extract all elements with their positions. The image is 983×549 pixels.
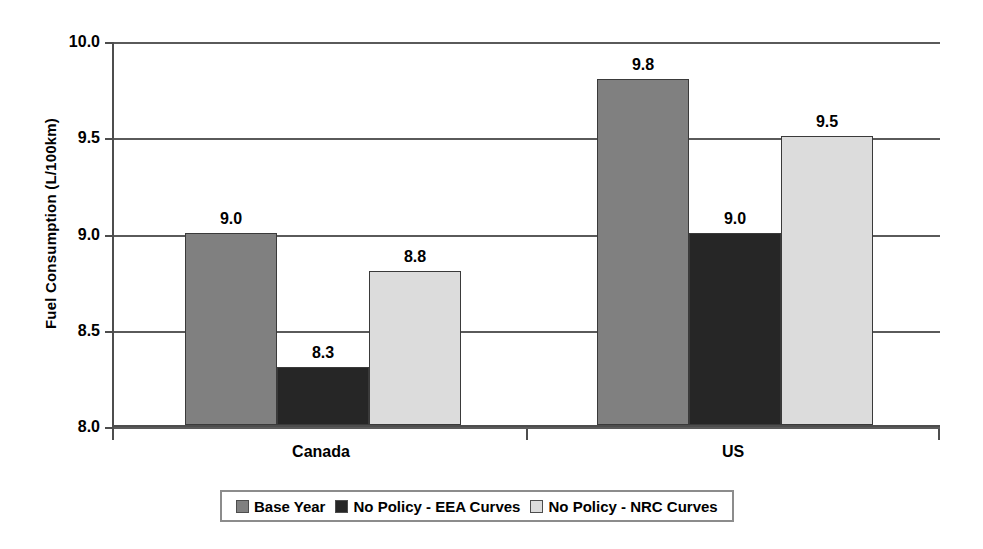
y-tick-label: 8.0 xyxy=(78,418,100,436)
y-tick-mark xyxy=(105,42,114,44)
legend-item: No Policy - NRC Curves xyxy=(530,498,717,515)
legend-item: No Policy - EEA Curves xyxy=(335,498,520,515)
legend: Base YearNo Policy - EEA CurvesNo Policy… xyxy=(220,490,734,522)
legend-label: No Policy - NRC Curves xyxy=(548,498,717,515)
bar-chart: Fuel Consumption (L/100km) 10.09.59.08.5… xyxy=(0,0,983,549)
x-axis-tick xyxy=(526,429,528,440)
bar: 8.8 xyxy=(369,271,461,425)
y-tick-mark xyxy=(105,235,114,237)
y-axis-title: Fuel Consumption (L/100km) xyxy=(42,44,59,404)
bar-value-label: 9.0 xyxy=(724,210,746,228)
legend-swatch-icon xyxy=(335,500,348,513)
y-tick-label: 10.0 xyxy=(69,33,100,51)
y-tick-label: 9.0 xyxy=(78,226,100,244)
legend-label: No Policy - EEA Curves xyxy=(353,498,520,515)
legend-item: Base Year xyxy=(236,498,325,515)
gridline xyxy=(114,42,940,44)
bar: 9.0 xyxy=(689,233,781,426)
bar-value-label: 9.0 xyxy=(220,210,242,228)
plot-area: 10.09.59.08.58.0 9.08.38.89.89.09.5 xyxy=(112,42,940,427)
x-category-label: US xyxy=(722,443,744,461)
category-axis: CanadaUS xyxy=(112,429,940,469)
legend-swatch-icon xyxy=(236,500,249,513)
legend-swatch-icon xyxy=(530,500,543,513)
bar-value-label: 9.8 xyxy=(632,56,654,74)
y-tick-label: 9.5 xyxy=(78,129,100,147)
y-tick-mark xyxy=(105,138,114,140)
bar: 9.8 xyxy=(597,79,689,426)
y-tick-mark xyxy=(105,331,114,333)
bar-value-label: 8.3 xyxy=(312,344,334,362)
y-tick-label: 8.5 xyxy=(78,322,100,340)
bar-value-label: 9.5 xyxy=(816,113,838,131)
x-category-label: Canada xyxy=(292,443,350,461)
bar: 8.3 xyxy=(277,367,369,425)
x-axis-tick xyxy=(938,429,940,440)
x-axis-tick xyxy=(112,429,114,440)
bar: 9.5 xyxy=(781,136,873,425)
bar-value-label: 8.8 xyxy=(404,248,426,266)
bar: 9.0 xyxy=(185,233,277,426)
legend-label: Base Year xyxy=(254,498,325,515)
